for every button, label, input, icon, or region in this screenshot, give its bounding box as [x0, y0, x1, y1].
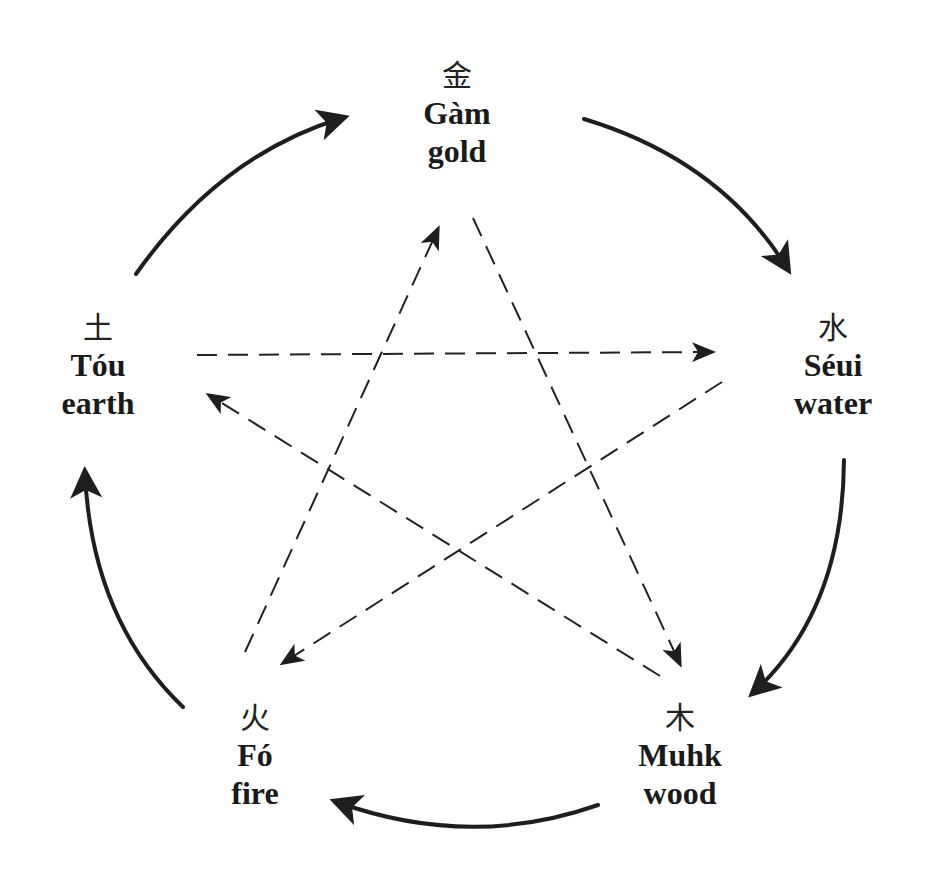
arrow-gold-to-wood	[473, 218, 680, 664]
arrow-earth-to-water	[197, 352, 712, 355]
arrow-fire-to-earth	[85, 474, 183, 707]
arrow-water-to-wood	[754, 460, 844, 692]
gold-english: gold	[423, 132, 491, 170]
earth-hanzi: 土	[62, 310, 135, 346]
arrow-wood-to-fire	[337, 802, 598, 827]
node-gold: 金 Gàm gold	[423, 58, 491, 170]
node-earth: 土 Tóu earth	[62, 310, 135, 422]
gold-romanization: Gàm	[423, 94, 491, 132]
wood-hanzi: 木	[638, 700, 722, 736]
node-wood: 木 Muhk wood	[638, 700, 722, 812]
wood-romanization: Muhk	[638, 736, 722, 774]
arrow-earth-to-gold	[136, 118, 342, 274]
arrow-gold-to-water	[584, 119, 787, 268]
water-hanzi: 水	[794, 310, 872, 346]
earth-romanization: Tóu	[62, 346, 135, 384]
arrow-wood-to-earth	[209, 395, 660, 676]
water-english: water	[794, 384, 872, 422]
water-romanization: Séui	[794, 346, 872, 384]
node-water: 水 Séui water	[794, 310, 872, 422]
fire-hanzi: 火	[231, 700, 278, 736]
gold-hanzi: 金	[423, 58, 491, 94]
fire-romanization: Fó	[231, 736, 278, 774]
five-elements-diagram: 金 Gàm gold 水 Séui water 土 Tóu earth 火 Fó…	[0, 0, 926, 886]
arrow-fire-to-gold	[245, 229, 438, 652]
node-fire: 火 Fó fire	[231, 700, 278, 812]
earth-english: earth	[62, 384, 135, 422]
wood-english: wood	[638, 774, 722, 812]
fire-english: fire	[231, 774, 278, 812]
